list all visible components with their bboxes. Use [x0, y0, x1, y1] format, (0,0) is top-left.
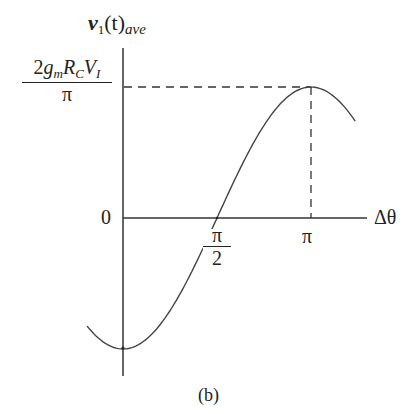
zero-crossing-point — [216, 217, 218, 219]
amp-r: R — [63, 56, 75, 78]
x-axis-label: Δθ — [374, 206, 396, 229]
min-point — [121, 346, 124, 349]
x-tick-label-pi-over-2: π 2 — [203, 224, 231, 269]
amp-g: g — [44, 56, 54, 78]
amplitude-numerator: 2gmRCVI — [22, 56, 112, 82]
y-sub2: ave — [125, 21, 146, 37]
amp-r-sub: C — [75, 66, 84, 81]
amp-g-sub: m — [54, 66, 63, 81]
y-arg: (t) — [104, 10, 125, 35]
amp-coef: 2 — [34, 56, 44, 78]
amp-denominator: π — [22, 83, 112, 106]
x-tick-num: π — [203, 224, 231, 246]
y-axis-label: v1(t)ave — [88, 10, 146, 38]
x-tick-den: 2 — [203, 247, 231, 269]
figure-caption: (b) — [198, 385, 219, 406]
amp-v: V — [84, 56, 96, 78]
y-tick-label-0: 0 — [101, 206, 111, 229]
amp-v-sub: I — [96, 66, 100, 81]
y-var: v — [88, 10, 98, 35]
amplitude-label: 2gmRCVI π — [22, 56, 112, 106]
x-tick-label-pi: π — [302, 225, 312, 248]
